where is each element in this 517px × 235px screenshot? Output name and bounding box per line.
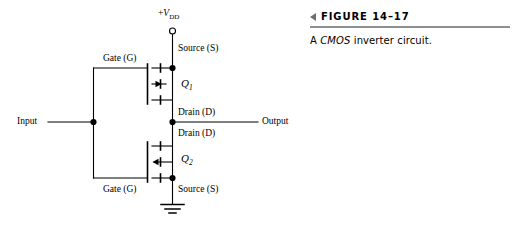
junction-dot-q1-source xyxy=(169,65,175,71)
q2-drain-label: Drain (D) xyxy=(178,129,215,139)
figure-caption-text: A CMOS inverter circuit. xyxy=(310,35,510,46)
q2-gate-label: Gate (G) xyxy=(103,185,137,195)
q1-device-label: Q1 xyxy=(181,78,193,92)
figure-caption-header: FIGURE 14–17 xyxy=(310,10,510,23)
junction-dot-q2-source xyxy=(169,175,175,181)
supply-voltage-label: +VDD xyxy=(158,9,179,21)
junction-dot-input xyxy=(90,119,96,125)
figure-caption-block: FIGURE 14–17 A CMOS inverter circuit. xyxy=(310,10,510,46)
q1-drain-label: Drain (D) xyxy=(178,108,215,118)
q2-source-label: Source (S) xyxy=(178,185,218,195)
output-label: Output xyxy=(262,117,288,127)
junction-dot-output xyxy=(169,119,175,125)
q2-device-label: Q2 xyxy=(181,153,193,167)
caption-suffix: inverter circuit. xyxy=(350,35,432,46)
triangle-left-icon xyxy=(310,13,316,21)
vdd-terminal-open-circle-icon xyxy=(170,28,176,34)
caption-prefix: A xyxy=(310,35,320,46)
caption-emphasis: CMOS xyxy=(320,35,350,46)
caption-divider-rule xyxy=(310,26,510,28)
figure-number-label: FIGURE 14–17 xyxy=(321,11,410,22)
q1-gate-label: Gate (G) xyxy=(103,54,137,64)
input-label: Input xyxy=(17,117,37,127)
q2-body-arrow-left-icon xyxy=(153,159,159,166)
figure-page: +VDD Source (S) Gate (G) Q1 Drain (D) Dr… xyxy=(0,0,517,235)
q1-source-label: Source (S) xyxy=(178,44,218,54)
